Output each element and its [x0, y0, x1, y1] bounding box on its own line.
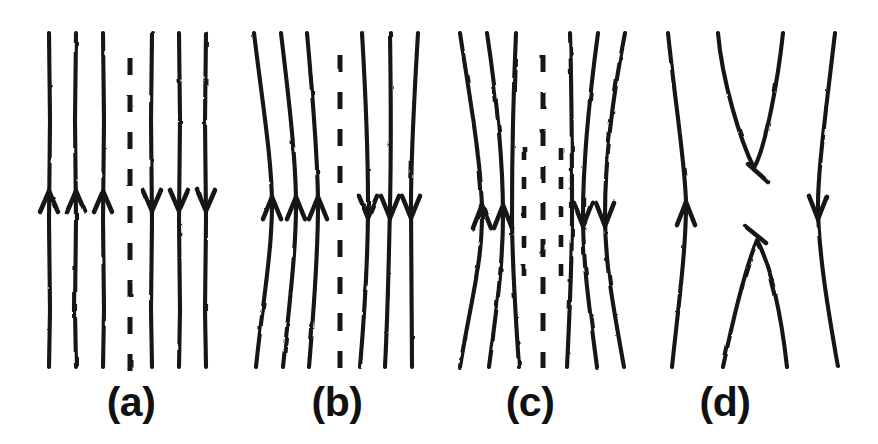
panel-label-c: (c) [506, 382, 555, 423]
panel-c-group [460, 33, 625, 374]
field-line-a-5 [179, 33, 180, 367]
reconnection-figure: (a) (b) (c) (d) [0, 0, 878, 444]
field-line-c-6 [605, 33, 625, 367]
field-line-a-4 [151, 33, 152, 367]
field-line-d-cusp-upper [718, 33, 783, 168]
field-line-c-4 [567, 33, 572, 367]
field-line-d-right [818, 33, 838, 367]
field-line-c-2 [487, 33, 503, 367]
cusp-tick-upper [748, 164, 768, 182]
field-line-c-3 [512, 33, 519, 367]
panel-d-group [668, 33, 838, 367]
field-line-a-6 [205, 33, 206, 367]
panel-a-group [40, 33, 215, 372]
field-line-d-cusp-lower [723, 240, 787, 367]
field-line-a-1 [49, 33, 50, 367]
panel-label-a: (a) [107, 382, 156, 423]
panel-label-b: (b) [312, 382, 363, 423]
field-line-b-5 [385, 33, 391, 367]
figure-canvas [0, 0, 878, 444]
field-line-c-1 [460, 33, 482, 367]
field-line-d-left [668, 33, 686, 367]
field-line-a-2 [75, 33, 76, 367]
panel-b-group [254, 33, 420, 372]
field-line-c-5 [583, 33, 598, 367]
panel-label-d: (d) [700, 382, 751, 423]
field-line-a-3 [103, 33, 104, 367]
